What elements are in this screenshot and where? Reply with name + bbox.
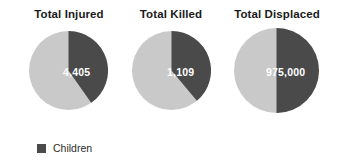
pies-layer: 4,405 1,109 975,000 xyxy=(0,0,337,130)
pie-value-total-killed: 1,109 xyxy=(167,66,194,78)
chart-legend: Children xyxy=(37,142,92,154)
legend-label-children: Children xyxy=(53,142,92,154)
legend-swatch-children xyxy=(37,144,46,153)
pie-value-total-injured: 4,405 xyxy=(63,66,90,78)
pie-value-total-displaced: 975,000 xyxy=(266,66,305,78)
pie-chart-figure: Total Injured Total Killed Total Displac… xyxy=(0,0,337,163)
